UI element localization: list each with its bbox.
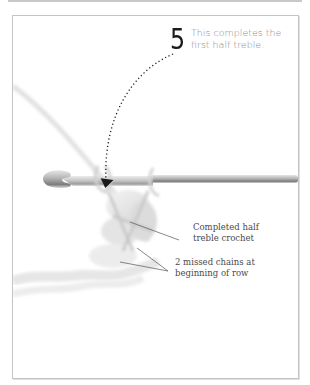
dotted-arrow (106, 54, 173, 181)
crochet-illustration (13, 16, 298, 378)
hook-shaft (151, 175, 298, 183)
illustration-panel: 5 This completes the first half treble. … (12, 15, 299, 379)
step-description: This completes the first half treble. (191, 27, 299, 51)
label-missed-chains: 2 missed chains at beginning of row (175, 257, 285, 279)
step-number: 5 (170, 25, 184, 54)
label-completed-half-treble: Completed half treble crochet (193, 222, 283, 244)
top-divider (8, 0, 302, 2)
stitch-cluster (89, 190, 157, 268)
